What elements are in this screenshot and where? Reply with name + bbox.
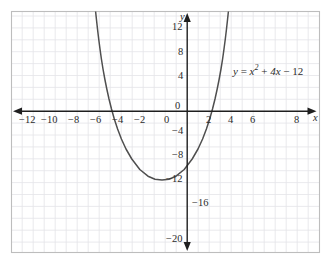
xtick-label-4: 4	[228, 115, 233, 126]
ytick-label-8: 8	[178, 47, 183, 58]
equation-plus: +	[261, 65, 267, 77]
xtick-label--4: −4	[112, 115, 123, 126]
ytick-label--20: −20	[166, 234, 182, 245]
xtick-label-0: 0	[164, 115, 169, 126]
equation-minus: −	[283, 65, 289, 77]
y-axis-label: y	[180, 12, 185, 23]
ytick-label--8: −8	[172, 150, 183, 161]
xtick-label--2: −2	[134, 115, 145, 126]
graph-canvas	[0, 0, 331, 265]
ytick-label-0: 0	[175, 101, 180, 112]
xtick-label-8: 8	[294, 115, 299, 126]
xtick-label--8: −8	[68, 115, 79, 126]
xtick-label--12: −12	[19, 115, 35, 126]
equation-term2: 4x	[270, 65, 280, 77]
graph-figure: −12 −10 −8 −6 −4 −2 0 2 4 6 8 12 8 4 0 −…	[0, 0, 331, 265]
equation-equals: =	[241, 65, 247, 77]
xtick-label--10: −10	[41, 115, 57, 126]
equation-term1-exponent: 2	[255, 63, 259, 72]
ytick-label-12: 12	[172, 22, 183, 33]
ytick-label-4: 4	[178, 71, 183, 82]
equation-term3: 12	[292, 65, 303, 77]
xtick-label--6: −6	[90, 115, 101, 126]
equation-annotation: y = x2 + 4x − 12	[233, 64, 303, 77]
ytick-label--16: −16	[192, 198, 208, 209]
xtick-label-6: 6	[250, 115, 255, 126]
xtick-label-2: 2	[206, 115, 211, 126]
ytick-label--12: −12	[166, 174, 182, 185]
ytick-label--4: −4	[172, 126, 183, 137]
equation-lhs: y	[233, 65, 238, 77]
x-axis-label: x	[313, 113, 318, 124]
